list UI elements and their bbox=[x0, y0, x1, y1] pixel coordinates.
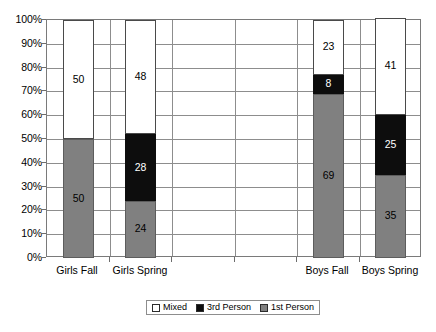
y-axis-tick-label: 80% bbox=[0, 62, 42, 73]
chart-legend: Mixed3rd Person1st Person bbox=[146, 300, 320, 315]
x-axis-tick bbox=[109, 257, 110, 262]
y-axis-tick-label: 10% bbox=[0, 228, 42, 239]
bar-segment[interactable] bbox=[125, 201, 156, 258]
x-axis-category-label: Boys Spring bbox=[344, 264, 436, 276]
bar-segment[interactable] bbox=[313, 94, 344, 258]
gridline bbox=[47, 115, 420, 116]
bar-segment[interactable] bbox=[63, 20, 94, 139]
category-separator bbox=[297, 20, 298, 256]
y-axis-tick-label: 50% bbox=[0, 133, 42, 144]
bar-segment[interactable] bbox=[375, 175, 406, 258]
gridline bbox=[47, 187, 420, 188]
bar-segment[interactable] bbox=[313, 20, 344, 75]
category-separator bbox=[110, 20, 111, 256]
gridline bbox=[47, 210, 420, 211]
y-axis-tick-label: 0% bbox=[0, 252, 42, 263]
bar-segment[interactable] bbox=[125, 134, 156, 201]
bar-segment[interactable] bbox=[375, 18, 406, 116]
legend-swatch-icon bbox=[260, 304, 268, 312]
bar-segment[interactable] bbox=[313, 75, 344, 94]
legend-item[interactable]: Mixed bbox=[152, 303, 187, 312]
y-axis-tick-label: 20% bbox=[0, 204, 42, 215]
x-axis-tick bbox=[296, 257, 297, 262]
y-axis-tick-label: 30% bbox=[0, 181, 42, 192]
y-axis-tick-label: 70% bbox=[0, 85, 42, 96]
legend-item[interactable]: 3rd Person bbox=[196, 303, 251, 312]
plot-area: 5005024284869823352541 bbox=[46, 19, 421, 257]
legend-label: 1st Person bbox=[271, 303, 314, 312]
x-axis-category-label: Girls Spring bbox=[94, 264, 186, 276]
legend-swatch-icon bbox=[152, 304, 160, 312]
gridline bbox=[47, 68, 420, 69]
y-axis-tick-label: 100% bbox=[0, 14, 42, 25]
y-axis-tick bbox=[41, 257, 46, 258]
gridline bbox=[47, 139, 420, 140]
stacked-bar-chart: 100%90%80%70%60%50%40%30%20%10%0% 500502… bbox=[0, 0, 436, 332]
bar-stack[interactable]: 242848 bbox=[125, 20, 156, 258]
bar-segment[interactable] bbox=[63, 139, 94, 258]
legend-label: Mixed bbox=[163, 303, 187, 312]
gridline bbox=[47, 44, 420, 45]
category-separator bbox=[235, 20, 236, 256]
bar-stack[interactable]: 50050 bbox=[63, 20, 94, 258]
bar-stack[interactable]: 69823 bbox=[313, 20, 344, 258]
y-axis: 100%90%80%70%60%50%40%30%20%10%0% bbox=[0, 0, 42, 332]
x-axis-tick bbox=[359, 257, 360, 262]
y-axis-tick-label: 60% bbox=[0, 109, 42, 120]
bar-segment[interactable] bbox=[375, 115, 406, 175]
legend-label: 3rd Person bbox=[207, 303, 251, 312]
legend-item[interactable]: 1st Person bbox=[260, 303, 314, 312]
bar-segment[interactable] bbox=[125, 20, 156, 134]
legend-swatch-icon bbox=[196, 304, 204, 312]
y-axis-tick-label: 40% bbox=[0, 157, 42, 168]
x-axis-tick bbox=[234, 257, 235, 262]
gridline bbox=[47, 234, 420, 235]
gridline bbox=[47, 91, 420, 92]
x-axis-tick bbox=[171, 257, 172, 262]
category-separator bbox=[360, 20, 361, 256]
bar-stack[interactable]: 352541 bbox=[375, 20, 406, 258]
category-separator bbox=[172, 20, 173, 256]
y-axis-tick-label: 90% bbox=[0, 38, 42, 49]
gridline bbox=[47, 163, 420, 164]
